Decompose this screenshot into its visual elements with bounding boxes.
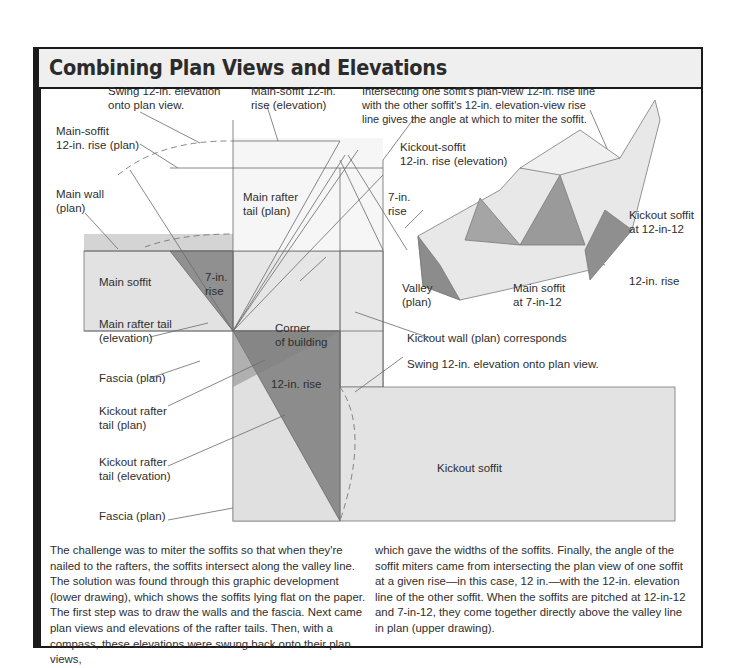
- label-kickout-soffit-elevation: Kickout-soffit12-in. rise (elevation): [400, 140, 507, 168]
- label-valley: Valley(plan): [402, 281, 432, 309]
- label-kickout-wall: Kickout wall (plan) corresponds: [407, 331, 567, 345]
- label-twelve-in-rise: 12-in. rise: [271, 377, 322, 391]
- body-text-column-2: which gave the widths of the soffits. Fi…: [375, 543, 690, 637]
- label-main-soffit-plan: Main-soffit12-in. rise (plan): [56, 124, 139, 152]
- label-main-soffit-elevation: Main-soffit 12-in.rise (elevation): [251, 84, 336, 112]
- label-twelve-in-rise-right: 12-in. rise: [629, 274, 680, 288]
- label-fascia-2: Fascia (plan): [99, 509, 165, 523]
- label-main-soffit-pitch: Main soffitat 7-in-12: [513, 281, 565, 309]
- label-swing-bottom: Swing 12-in. elevation onto plan view.: [407, 357, 599, 371]
- label-kickout-soffit: Kickout soffit: [437, 461, 502, 475]
- caption: Intersecting one soffit's plan-view 12-i…: [362, 84, 595, 126]
- label-kickout-rafter-elevation: Kickout raftertail (elevation): [99, 455, 171, 483]
- label-main-soffit: Main soffit: [99, 275, 151, 289]
- label-seven-in-rise-right: 7-in.rise: [388, 190, 410, 218]
- label-kickout-rafter-plan: Kickout raftertail (plan): [99, 404, 167, 432]
- label-fascia-1: Fascia (plan): [99, 371, 165, 385]
- main-wall-band: [84, 234, 254, 251]
- label-main-wall: Main wall(plan): [56, 187, 104, 215]
- label-swing-top: Swing 12-in. elevationonto plan view.: [108, 84, 221, 112]
- label-main-rafter-plan: Main raftertail (plan): [243, 190, 298, 218]
- label-main-rafter-elevation: Main rafter tail(elevation): [99, 317, 172, 345]
- label-seven-in-rise: 7-in.rise: [205, 270, 227, 298]
- body-text-column-1: The challenge was to miter the soffits s…: [50, 543, 370, 668]
- label-kickout-soffit-pitch: Kickout soffitat 12-in-12: [629, 208, 694, 236]
- label-corner: Cornerof building: [275, 321, 327, 349]
